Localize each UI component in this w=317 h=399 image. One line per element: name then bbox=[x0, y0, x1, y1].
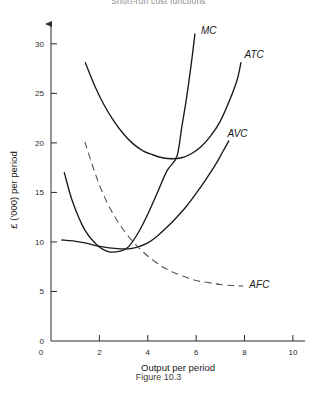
x-axis: 0246810 Output per period bbox=[39, 335, 305, 373]
y-tick-label-30: 30 bbox=[35, 40, 44, 49]
curve-afc bbox=[85, 142, 243, 286]
y-tick-label-15: 15 bbox=[35, 188, 44, 197]
curve-label-afc: AFC bbox=[248, 279, 270, 290]
x-tick-label-6: 6 bbox=[194, 348, 199, 357]
cost-functions-chart: 051015202530 £ ('000) per period 0246810… bbox=[0, 0, 317, 399]
x-tick-label-4: 4 bbox=[146, 348, 151, 357]
y-tick-label-20: 20 bbox=[35, 139, 44, 148]
y-axis: 051015202530 £ ('000) per period bbox=[8, 24, 57, 346]
y-tick-label-25: 25 bbox=[35, 89, 44, 98]
y-tick-label-0: 0 bbox=[40, 337, 45, 346]
series-layer bbox=[62, 34, 243, 286]
y-tick-label-10: 10 bbox=[35, 238, 44, 247]
x-tick-label-2: 2 bbox=[97, 348, 102, 357]
y-axis-ticks: 051015202530 bbox=[35, 40, 57, 346]
figure-container: Short-run cost functions 051015202530 £ … bbox=[0, 0, 317, 399]
x-tick-label-10: 10 bbox=[288, 348, 297, 357]
y-tick-label-5: 5 bbox=[40, 287, 45, 296]
curve-label-mc: MC bbox=[201, 25, 217, 36]
x-tick-label-origin: 0 bbox=[39, 348, 44, 357]
curve-label-avc: AVC bbox=[227, 128, 249, 139]
curve-atc bbox=[85, 63, 241, 159]
x-axis-ticks: 0246810 bbox=[39, 335, 298, 357]
y-axis-title: £ ('000) per period bbox=[8, 151, 19, 228]
figure-caption: Figure 10.3 bbox=[0, 372, 317, 382]
x-tick-label-8: 8 bbox=[242, 348, 247, 357]
curve-label-atc: ATC bbox=[244, 49, 265, 60]
curve-labels-layer: MCATCAVCAFC bbox=[201, 25, 270, 290]
